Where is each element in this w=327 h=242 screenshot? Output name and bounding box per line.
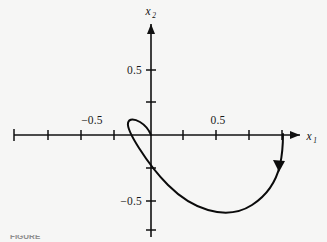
y-axis-name: x xyxy=(144,5,151,17)
x-axis-name-subscript: 1 xyxy=(313,136,317,145)
figure-caption-text: FIGURE xyxy=(0,235,327,240)
x-axis-arrow-icon xyxy=(290,131,300,139)
x-tick-label-positive: 0.5 xyxy=(211,114,226,126)
y-axis-name-group: x 2 xyxy=(144,5,156,20)
x-axis-group xyxy=(14,129,300,141)
y-axis-group xyxy=(146,24,156,237)
x-axis-name-group: x 1 xyxy=(305,130,316,145)
figure-caption-strip: FIGURE xyxy=(0,235,327,242)
x-tick-label-negative: −0.5 xyxy=(81,114,103,126)
phase-plane-plot: −0.5 0.5 0.5 −0.5 x 1 x 2 xyxy=(0,0,327,242)
trajectory-direction-arrow-icon xyxy=(273,160,285,172)
figure-container: −0.5 0.5 0.5 −0.5 x 1 x 2 FIGURE xyxy=(0,0,327,242)
y-axis-name-subscript: 2 xyxy=(152,11,156,20)
y-tick-label-positive: 0.5 xyxy=(127,64,142,76)
y-tick-label-negative: −0.5 xyxy=(120,195,142,207)
y-axis-arrow-icon xyxy=(147,24,155,34)
x-axis-name: x xyxy=(305,130,312,142)
